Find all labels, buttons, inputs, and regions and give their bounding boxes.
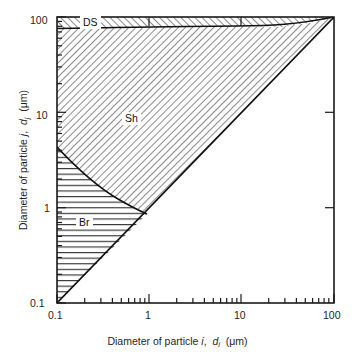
x-axis-title-var: i [201, 335, 203, 347]
y-axis-title: Diameter of particle j, dj (μm) [18, 0, 32, 320]
y-axis-title-var: j [17, 134, 29, 136]
y-tick-label-0: 100 [30, 15, 48, 26]
region-label-ds: DS [80, 16, 101, 29]
region-label-sh: Sh [122, 112, 141, 125]
region-label-br: Br [76, 216, 93, 229]
x-axis-title-units: (μm) [226, 335, 248, 347]
figure-container: 0.1 1 10 100 100 10 1 0.1 DS Sh Br Diame… [0, 0, 355, 360]
x-axis-title-main: Diameter of particle [107, 335, 201, 347]
x-tick-label-0: 0.1 [48, 310, 63, 321]
y-axis-title-units: (μm) [17, 90, 29, 112]
x-axis-title: Diameter of particle i, di (μm) [0, 336, 355, 348]
log-log-regime-plot [0, 0, 355, 360]
y-tick-label-1: 10 [36, 110, 48, 121]
x-axis-title-subscript: i [218, 340, 220, 349]
y-axis-title-symbol: d [17, 119, 29, 125]
x-tick-label-2: 10 [234, 310, 246, 321]
y-tick-label-3: 0.1 [30, 298, 45, 309]
x-tick-label-3: 100 [323, 310, 341, 321]
y-tick-label-2: 1 [44, 203, 50, 214]
y-axis-title-subscript: j [22, 118, 31, 120]
x-tick-label-1: 1 [145, 310, 151, 321]
y-axis-title-main: Diameter of particle [17, 136, 29, 230]
